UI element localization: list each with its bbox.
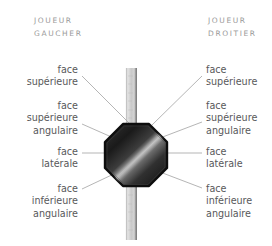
heading-left-line2: GAUCHER	[34, 27, 82, 40]
label-line: face	[206, 183, 252, 195]
label-line: face	[27, 100, 78, 112]
label-left-face-superieure-angulaire: face supérieure angulaire	[27, 100, 78, 137]
heading-left-line1: JOUEUR	[34, 14, 82, 27]
label-right-face-inferieure-angulaire: face inférieure angulaire	[206, 183, 252, 220]
label-line: angulaire	[206, 125, 257, 137]
label-line: face	[206, 100, 257, 112]
heading-joueur-droitier: JOUEUR DROITIER	[208, 14, 257, 40]
label-line: supérieure	[206, 112, 257, 124]
label-line: angulaire	[27, 125, 78, 137]
label-line: supérieure	[27, 112, 78, 124]
label-line: face	[206, 146, 243, 158]
label-line: supérieure	[206, 76, 257, 88]
octagon-bat-face-diagram: JOUEUR GAUCHER JOUEUR DROITIER face supé…	[0, 0, 272, 246]
label-line: latérale	[41, 158, 78, 170]
label-line: face	[32, 183, 78, 195]
leader-right-superieure	[152, 76, 202, 125]
label-line: angulaire	[32, 208, 78, 220]
label-right-face-superieure: face supérieure	[206, 64, 257, 89]
heading-right-line1: JOUEUR	[208, 14, 257, 27]
octagon-shape-icon	[105, 124, 167, 186]
leader-right-inferieure-angulaire	[160, 172, 202, 188]
label-left-face-laterale: face latérale	[41, 146, 78, 171]
label-line: inférieure	[206, 195, 252, 207]
label-line: supérieure	[27, 76, 78, 88]
label-left-face-superieure: face supérieure	[27, 64, 78, 89]
label-line: latérale	[206, 158, 243, 170]
leader-right-superieure-angulaire	[160, 122, 202, 138]
label-line: face	[206, 64, 257, 76]
heading-right-line2: DROITIER	[208, 27, 257, 40]
label-right-face-superieure-angulaire: face supérieure angulaire	[206, 100, 257, 137]
label-left-face-inferieure-angulaire: face inférieure angulaire	[32, 183, 78, 220]
label-line: angulaire	[206, 208, 252, 220]
label-line: face	[41, 146, 78, 158]
label-line: inférieure	[32, 195, 78, 207]
label-line: face	[27, 64, 78, 76]
leader-left-superieure	[82, 76, 130, 124]
label-right-face-laterale: face latérale	[206, 146, 243, 171]
heading-joueur-gaucher: JOUEUR GAUCHER	[34, 14, 82, 40]
